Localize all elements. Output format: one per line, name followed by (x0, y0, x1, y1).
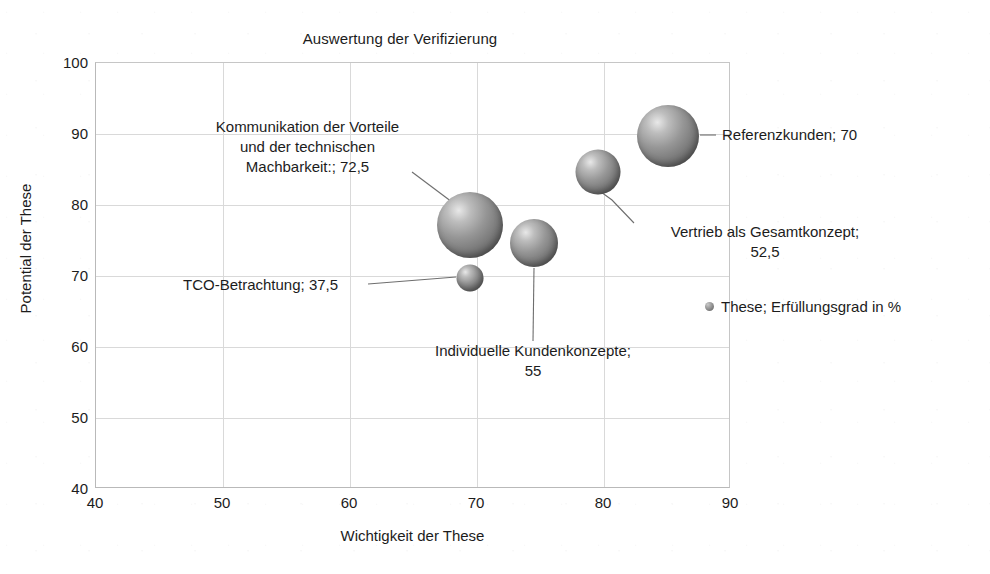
label-individuelle-kundenkonzepte: Individuelle Kundenkonzepte; 55 (404, 341, 662, 381)
bubble-vertrieb-gesamtkonzept[interactable] (576, 150, 621, 195)
legend: These; Erfüllungsgrad in % (705, 298, 901, 315)
y-tick-label: 100 (42, 54, 88, 71)
y-tick-label: 80 (42, 196, 88, 213)
y-axis-ticks: 100 90 80 70 60 50 40 (38, 62, 88, 488)
gridline-horizontal (96, 418, 729, 419)
x-tick-label: 90 (700, 494, 760, 511)
bubble-chart: Auswertung der Verifizierung 100 90 80 7… (0, 0, 990, 574)
x-axis-title: Wichtigkeit der These (95, 527, 730, 544)
bubble-individuelle-kundenkonzepte[interactable] (510, 219, 558, 267)
x-tick-label: 80 (573, 494, 633, 511)
x-tick-label: 50 (192, 494, 252, 511)
y-tick-label: 70 (42, 267, 88, 284)
x-tick-label: 60 (319, 494, 379, 511)
legend-bubble-marker-icon (705, 302, 714, 311)
chart-title: Auswertung der Verifizierung (190, 30, 610, 47)
gridline-vertical (604, 63, 605, 487)
y-tick-label: 50 (42, 409, 88, 426)
label-referenzkunden: Referenzkunden; 70 (722, 125, 942, 145)
y-tick-label: 60 (42, 338, 88, 355)
y-axis-title: Potential der These (17, 149, 34, 349)
bubble-referenzkunden[interactable] (637, 105, 699, 167)
gridline-horizontal (96, 205, 729, 206)
legend-label: These; Erfüllungsgrad in % (721, 298, 901, 315)
x-tick-label: 40 (65, 494, 125, 511)
x-axis-ticks: 40 50 60 70 80 90 (95, 494, 730, 516)
label-kommunikation: Kommunikation der Vorteile und der techn… (200, 117, 415, 177)
label-tco-betrachtung: TCO-Betrachtung; 37,5 (183, 275, 368, 295)
x-tick-label: 70 (446, 494, 506, 511)
y-tick-label: 90 (42, 125, 88, 142)
bubble-kommunikation[interactable] (437, 192, 503, 258)
label-vertrieb-gesamtkonzept: Vertrieb als Gesamtkonzept; 52,5 (640, 222, 890, 262)
bubble-tco-betrachtung[interactable] (457, 265, 484, 292)
